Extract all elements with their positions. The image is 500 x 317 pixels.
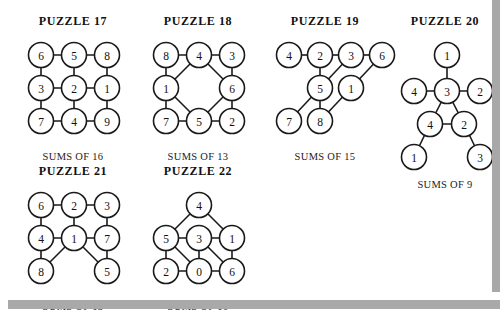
node-2[interactable]: 2 — [468, 79, 493, 104]
node-value: 1 — [104, 83, 110, 95]
node-value: 2 — [71, 200, 77, 212]
page-shadow-bottom — [8, 300, 500, 309]
node-value: 2 — [163, 266, 169, 278]
node-4[interactable]: 4 — [187, 43, 212, 68]
puzzle-17: PUZZLE 17658321749SUMS OF 16 — [18, 14, 128, 162]
node-value: 6 — [229, 83, 235, 95]
node-4[interactable]: 4 — [187, 193, 212, 218]
node-3[interactable]: 3 — [435, 79, 460, 104]
node-value: 4 — [286, 50, 292, 62]
puzzle-page: PUZZLE 17658321749SUMS OF 16PUZZLE 18843… — [0, 0, 492, 292]
node-5[interactable]: 5 — [62, 43, 87, 68]
node-value: 2 — [71, 83, 77, 95]
node-6[interactable]: 6 — [220, 259, 245, 284]
puzzle-22-title: PUZZLE 22 — [143, 164, 253, 179]
node-value: 7 — [38, 116, 44, 128]
node-2[interactable]: 2 — [308, 43, 333, 68]
node-3[interactable]: 3 — [468, 145, 493, 170]
node-value: 5 — [196, 116, 202, 128]
node-4[interactable]: 4 — [29, 226, 54, 251]
node-8[interactable]: 8 — [154, 43, 179, 68]
node-6[interactable]: 6 — [29, 43, 54, 68]
node-5[interactable]: 5 — [154, 226, 179, 251]
node-value: 8 — [163, 50, 169, 62]
puzzle-22: PUZZLE 224531206SUMS OF 10 — [143, 164, 253, 312]
node-6[interactable]: 6 — [29, 193, 54, 218]
puzzle-18-graph: 84316752 — [143, 32, 266, 147]
node-value: 7 — [286, 116, 292, 128]
node-2[interactable]: 2 — [452, 112, 477, 137]
node-value: 6 — [38, 200, 44, 212]
node-6[interactable]: 6 — [370, 43, 395, 68]
node-3[interactable]: 3 — [220, 43, 245, 68]
node-value: 5 — [317, 83, 323, 95]
node-value: 3 — [477, 152, 483, 164]
puzzle-19: PUZZLE 1942365178SUMS OF 15 — [266, 14, 384, 162]
puzzle-19-graph: 42365178 — [266, 32, 397, 147]
node-4[interactable]: 4 — [62, 109, 87, 134]
node-value: 2 — [229, 116, 235, 128]
node-value: 6 — [38, 50, 44, 62]
puzzle-18-title: PUZZLE 18 — [143, 14, 253, 29]
puzzle-18-caption: SUMS OF 13 — [143, 151, 253, 162]
node-value: 6 — [379, 50, 385, 62]
node-4[interactable]: 4 — [418, 112, 443, 137]
node-value: 1 — [348, 83, 354, 95]
node-5[interactable]: 5 — [187, 109, 212, 134]
node-value: 1 — [163, 83, 169, 95]
node-9[interactable]: 9 — [95, 109, 120, 134]
puzzle-17-caption: SUMS OF 16 — [18, 151, 128, 162]
node-value: 5 — [71, 50, 77, 62]
node-value: 2 — [317, 50, 323, 62]
node-value: 0 — [196, 266, 202, 278]
node-2[interactable]: 2 — [62, 193, 87, 218]
node-4[interactable]: 4 — [402, 79, 427, 104]
node-8[interactable]: 8 — [95, 43, 120, 68]
node-1[interactable]: 1 — [402, 145, 427, 170]
node-4[interactable]: 4 — [277, 43, 302, 68]
node-value: 5 — [104, 266, 110, 278]
node-value: 2 — [461, 119, 467, 131]
puzzle-20: PUZZLE 2014324213SUMS OF 9 — [393, 14, 497, 190]
node-7[interactable]: 7 — [277, 109, 302, 134]
node-value: 7 — [163, 116, 169, 128]
node-value: 3 — [104, 200, 110, 212]
node-1[interactable]: 1 — [95, 76, 120, 101]
node-1[interactable]: 1 — [154, 76, 179, 101]
node-3[interactable]: 3 — [29, 76, 54, 101]
node-1[interactable]: 1 — [339, 76, 364, 101]
node-value: 4 — [38, 233, 44, 245]
node-value: 4 — [427, 119, 433, 131]
node-value: 8 — [104, 50, 110, 62]
node-6[interactable]: 6 — [220, 76, 245, 101]
node-3[interactable]: 3 — [339, 43, 364, 68]
node-value: 9 — [104, 116, 110, 128]
node-value: 3 — [348, 50, 354, 62]
node-8[interactable]: 8 — [308, 109, 333, 134]
node-1[interactable]: 1 — [220, 226, 245, 251]
puzzle-21: PUZZLE 2162341785SUMS OF 13 — [18, 164, 128, 312]
node-1[interactable]: 1 — [435, 43, 460, 68]
node-2[interactable]: 2 — [62, 76, 87, 101]
node-value: 3 — [196, 233, 202, 245]
node-value: 8 — [38, 266, 44, 278]
puzzle-21-graph: 62341785 — [18, 182, 141, 297]
node-3[interactable]: 3 — [95, 193, 120, 218]
node-7[interactable]: 7 — [95, 226, 120, 251]
node-3[interactable]: 3 — [187, 226, 212, 251]
page-shadow-right — [492, 0, 500, 292]
node-value: 3 — [38, 83, 44, 95]
node-value: 4 — [71, 116, 77, 128]
node-5[interactable]: 5 — [95, 259, 120, 284]
node-2[interactable]: 2 — [154, 259, 179, 284]
node-7[interactable]: 7 — [154, 109, 179, 134]
node-value: 8 — [317, 116, 323, 128]
node-7[interactable]: 7 — [29, 109, 54, 134]
node-2[interactable]: 2 — [220, 109, 245, 134]
node-5[interactable]: 5 — [308, 76, 333, 101]
puzzle-19-caption: SUMS OF 15 — [266, 151, 384, 162]
node-8[interactable]: 8 — [29, 259, 54, 284]
node-0[interactable]: 0 — [187, 259, 212, 284]
node-value: 4 — [196, 50, 202, 62]
node-1[interactable]: 1 — [62, 226, 87, 251]
